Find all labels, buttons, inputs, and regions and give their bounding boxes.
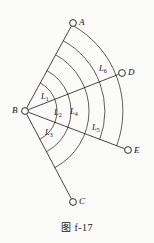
vertex-label-b: B [12,106,18,115]
figure-container: ABCDE L1L2L3L4L5L6 图 f-17 [0,0,154,243]
arc-label-subscript: 1 [46,96,49,102]
vertex-marker-c [70,199,77,206]
vertex-label-a: A [79,18,85,27]
vertex-label-d: D [128,68,135,77]
vertex-marker-b [22,108,29,115]
arc-label-l4: L4 [70,107,78,116]
arc-label-subscript: 3 [50,132,53,138]
caption-number-text: f-17 [75,222,93,233]
vertex-marker-d [119,70,126,77]
arc-label-subscript: 5 [97,127,100,133]
arc-label-l3: L3 [45,128,53,137]
figure-caption: 图 f-17 [0,219,154,234]
arc-label-l5: L5 [92,123,100,132]
vertex-label-e: E [134,146,140,155]
arc-label-subscript: 4 [75,111,78,117]
vertex-marker-a [70,20,77,27]
arc-label-l2: L2 [54,108,62,117]
arc-label-subscript: 6 [104,68,107,74]
arc-label-subscript: 2 [59,112,62,118]
arc-label-l1: L1 [41,92,49,101]
caption-prefix: 图 [61,222,71,233]
vertex-label-c: C [79,197,85,206]
angle-diagram [0,0,154,243]
ray-BE [29,112,125,148]
vertex-marker-e [125,147,132,154]
arc-group [40,25,123,168]
arc-label-l6: L6 [99,64,107,73]
